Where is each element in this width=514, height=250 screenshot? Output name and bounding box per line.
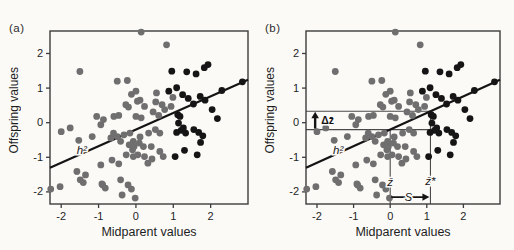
scatter-point-unselected — [332, 68, 339, 75]
scatter-point-unselected — [136, 140, 143, 147]
scatter-point-selected — [175, 120, 182, 127]
x-tick-label: 0 — [133, 210, 139, 222]
scatter-point-selected — [427, 129, 434, 136]
scatter-point-selected — [202, 97, 209, 104]
scatter-point-unselected — [152, 99, 159, 106]
scatter-point-unselected — [170, 94, 177, 101]
scatter-point-unselected — [149, 156, 156, 163]
scatter-point-unselected — [75, 137, 82, 144]
scatter-point-selected — [190, 101, 197, 108]
scatter-point-selected — [168, 68, 175, 75]
scatter-point-unselected — [392, 29, 399, 36]
scatter-point-unselected — [421, 103, 428, 110]
scatter-point-unselected — [372, 176, 379, 183]
scatter-point-selected — [435, 130, 442, 137]
scatter-point-unselected — [368, 133, 375, 140]
scatter-point-selected — [457, 61, 464, 68]
scatter-point-selected — [450, 139, 457, 146]
scatter-point-unselected — [102, 185, 109, 192]
scatter-point-selected — [452, 132, 459, 139]
x-tick-label: 2 — [460, 210, 466, 222]
scatter-point-unselected — [67, 124, 74, 131]
scatter-point-unselected — [388, 98, 395, 105]
scatter-point-unselected — [386, 195, 393, 202]
scatter-point-selected — [455, 97, 462, 104]
scatter-point-selected — [467, 115, 474, 122]
scatter-point-selected — [173, 84, 180, 91]
x-tick-label: -2 — [56, 210, 66, 222]
scatter-point-unselected — [47, 186, 54, 193]
scatter-point-unselected — [329, 168, 336, 175]
response-arrow-head — [311, 112, 319, 119]
scatter-point-unselected — [368, 78, 375, 85]
scatter-point-selected — [427, 84, 434, 91]
scatter-point-selected — [433, 91, 440, 98]
scatter-point-unselected — [134, 151, 141, 158]
scatter-point-selected — [434, 147, 441, 154]
scatter-point-unselected — [153, 90, 160, 97]
scatter-point-unselected — [138, 114, 145, 121]
y-tick-label: -1 — [289, 151, 299, 163]
scatter-point-unselected — [363, 157, 370, 164]
scatter-point-unselected — [114, 78, 121, 85]
scatter-point-selected — [181, 147, 188, 154]
scatter-point-unselected — [352, 121, 359, 128]
scatter-point-unselected — [402, 143, 409, 150]
scatter-point-unselected — [57, 183, 64, 190]
scatter-point-unselected — [423, 94, 430, 101]
scatter-point-unselected — [121, 131, 128, 138]
scatter-point-unselected — [314, 128, 321, 135]
scatter-point-unselected — [109, 157, 116, 164]
scatter-point-selected — [430, 113, 437, 120]
scatter-point-unselected — [138, 29, 145, 36]
scatter-point-unselected — [381, 130, 388, 137]
scatter-point-unselected — [123, 151, 130, 158]
scatter-point-unselected — [391, 133, 398, 140]
scatter-point-unselected — [163, 41, 170, 48]
selection-differential-label: S — [405, 191, 413, 203]
x-tick-label: 0 — [387, 210, 393, 222]
scatter-point-unselected — [407, 90, 414, 97]
scatter-point-selected — [218, 87, 225, 94]
x-tick-label: 1 — [170, 210, 176, 222]
scatter-point-unselected — [373, 192, 380, 199]
scatter-point-selected — [173, 129, 180, 136]
scatter-point-selected — [471, 87, 478, 94]
scatter-point-selected — [197, 139, 204, 146]
y-tick-label: -2 — [289, 185, 299, 197]
x-tick-label: 2 — [208, 210, 214, 222]
scatter-point-unselected — [387, 88, 394, 95]
scatter-point-selected — [183, 68, 190, 75]
scatter-point-unselected — [80, 179, 87, 186]
scatter-point-unselected — [150, 109, 157, 116]
scatter-point-unselected — [410, 130, 417, 137]
scatter-point-unselected — [348, 113, 355, 120]
zbar-label: z̄ — [386, 176, 393, 188]
scatter-point-unselected — [117, 176, 124, 183]
scatter-point-selected — [419, 88, 426, 95]
scatter-point-selected — [437, 68, 444, 75]
scatter-point-unselected — [160, 153, 167, 160]
y-tick-label: -2 — [33, 185, 43, 197]
heritability-label: h² — [333, 144, 344, 156]
scatter-point-unselected — [58, 128, 65, 135]
scatter-point-selected — [199, 132, 206, 139]
zbar-star-label: z̄* — [424, 175, 436, 187]
y-tick-label: 1 — [37, 82, 43, 94]
scatter-point-unselected — [337, 172, 344, 179]
y-tick-label: 2 — [293, 47, 299, 59]
scatter-point-unselected — [141, 103, 148, 110]
scatter-point-selected — [239, 78, 246, 85]
scatter-point-unselected — [403, 156, 410, 163]
scatter-point-unselected — [377, 101, 384, 108]
scatter-point-unselected — [93, 113, 100, 120]
scatter-point-unselected — [352, 162, 359, 169]
scatter-point-selected — [182, 130, 189, 137]
scatter-point-selected — [491, 78, 498, 85]
scatter-point-unselected — [76, 68, 83, 75]
x-tick-label: -1 — [349, 210, 359, 222]
panel-b-tag: (b) — [265, 22, 281, 34]
scatter-point-unselected — [335, 179, 342, 186]
scatter-point-unselected — [389, 151, 396, 158]
y-tick-label: 0 — [293, 116, 299, 128]
